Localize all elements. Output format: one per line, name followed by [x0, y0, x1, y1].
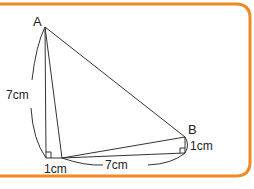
label-right-small: 1cm [190, 139, 213, 153]
measurement-arcs [31, 27, 188, 165]
label-bottom-small: 1cm [44, 162, 67, 176]
arc-bottom-left [62, 158, 103, 165]
figure-lines [45, 27, 185, 158]
segment-a-d [45, 27, 62, 158]
right-angle-e [180, 148, 185, 153]
arc-bottom-right [148, 153, 185, 165]
arc-left-top [32, 27, 45, 80]
segment-a-c [45, 27, 46, 158]
label-point-b: B [188, 122, 197, 137]
label-bottom-length: 7cm [105, 158, 128, 172]
geometry-diagram: A B 7cm 1cm 7cm 1cm [0, 0, 254, 189]
label-point-a: A [33, 14, 42, 29]
arc-left-bottom [31, 108, 46, 158]
segment-a-b [45, 27, 185, 137]
label-left-length: 7cm [6, 88, 29, 102]
right-angle-markers [46, 148, 185, 158]
right-angle-c [46, 152, 51, 158]
segment-d-b [62, 137, 185, 158]
